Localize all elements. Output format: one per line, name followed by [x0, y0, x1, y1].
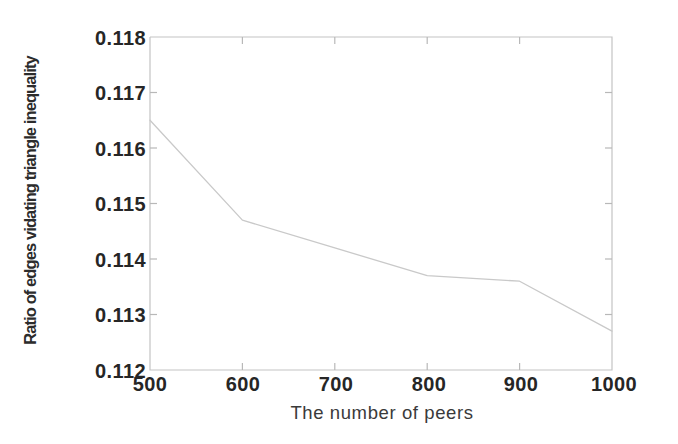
plot-area	[0, 0, 678, 444]
chart-figure: Ratio of edges vidating triangle inequal…	[0, 0, 678, 444]
axis-frame	[150, 37, 612, 370]
x-axis-ticks	[242, 37, 519, 370]
y-axis-ticks	[150, 93, 612, 315]
data-series-line	[150, 120, 612, 331]
